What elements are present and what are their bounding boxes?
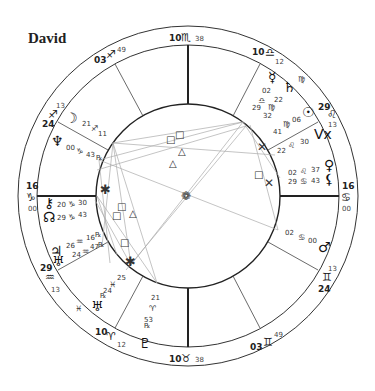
mars-deg: 02 bbox=[285, 229, 294, 237]
sun-icon: ☉ bbox=[302, 104, 315, 120]
cusp-dsc-min: 00 bbox=[28, 205, 37, 213]
cusp-dsc-deg: 16 bbox=[26, 181, 39, 191]
square-aspect-icon: □ bbox=[120, 237, 129, 248]
mars-min: 00 bbox=[308, 237, 317, 245]
virgo-sign: ♍ bbox=[298, 75, 305, 84]
chart-wheel: □ □ △ △ □ □ △ □ □ ✱ ✱ ✕ ✕ ❁ 10 ♏ 38 10 ♎… bbox=[0, 0, 375, 391]
sextile-aspect-icon: ✱ bbox=[100, 182, 111, 197]
chiron-min: 30 bbox=[78, 199, 87, 207]
uranus-deg: 24 bbox=[72, 251, 81, 259]
cusp-3-min: 49 bbox=[274, 331, 283, 339]
cusp-6-min: 13 bbox=[51, 286, 60, 294]
chiron-sign: ♑ bbox=[68, 200, 75, 209]
lilith-sign: ♋ bbox=[300, 177, 307, 186]
pluto-retro: ℞ bbox=[144, 322, 150, 330]
cusp-12-sign: ♌ bbox=[327, 108, 337, 121]
vertex-icon: Vx bbox=[314, 126, 332, 142]
sun-sign: ♍ bbox=[283, 120, 290, 129]
neptune-retro: ℞ bbox=[96, 154, 102, 162]
uranus-retro: ℞ bbox=[98, 241, 104, 249]
chiron-deg: 20 bbox=[57, 201, 66, 209]
lilith-deg: 29 bbox=[288, 178, 297, 186]
north-node-sign: ♑ bbox=[68, 213, 75, 222]
vertex-deg: 22 bbox=[277, 147, 286, 155]
mercury-min: 29 bbox=[252, 104, 261, 112]
quincunx-aspect-icon: ✕ bbox=[257, 140, 267, 154]
venus-sign: ♌ bbox=[300, 167, 307, 176]
jupiter-retro: ℞ bbox=[95, 231, 101, 239]
saturn-icon: ♄ bbox=[283, 79, 296, 95]
uranus-lower-icon: ♅ bbox=[91, 298, 104, 314]
saturn-sign: ♍ bbox=[268, 103, 275, 112]
pisces-deg: 25 bbox=[117, 274, 126, 282]
north-node-deg: 29 bbox=[57, 214, 66, 222]
cusp-asc-min: 00 bbox=[342, 205, 351, 213]
saturn-min: 32 bbox=[263, 112, 272, 120]
cusp-5-min: 12 bbox=[117, 341, 126, 349]
astrology-chart: David bbox=[0, 0, 375, 391]
chart-title: David bbox=[28, 30, 66, 47]
square-aspect-icon: □ bbox=[254, 169, 263, 180]
moon-min: 11 bbox=[98, 130, 107, 138]
aquarius-sign: ♒ bbox=[76, 237, 83, 246]
cusp-mc-min: 38 bbox=[195, 35, 204, 43]
cusp-2-sign: ♊ bbox=[322, 271, 332, 284]
cusp-mc-deg: 10 bbox=[169, 33, 182, 43]
cusp-9-min: 49 bbox=[117, 46, 126, 54]
uranus-sign: ♒ bbox=[82, 247, 89, 256]
cusp-6-sign: ♒ bbox=[45, 271, 55, 284]
venus-deg: 02 bbox=[288, 169, 297, 177]
cusp-11-sign: ♎ bbox=[265, 46, 275, 59]
uranus-icon: ♅ bbox=[52, 253, 65, 269]
neptune-icon: ♆ bbox=[51, 133, 64, 149]
cusp-11-min: 12 bbox=[275, 58, 284, 66]
neptune-sign: ♑ bbox=[76, 147, 83, 156]
pisces-cusp-sign: ♓ bbox=[75, 304, 82, 313]
cusp-3-sign: ♊ bbox=[263, 336, 273, 349]
vertex-min: 30 bbox=[300, 138, 309, 146]
cusp-11-deg: 10 bbox=[252, 47, 265, 57]
square-aspect-icon: □ bbox=[175, 129, 184, 140]
pluto-sign: ♈ bbox=[149, 304, 156, 313]
saturn-deg: 22 bbox=[274, 96, 283, 104]
lilith-icon: ⚸ bbox=[324, 171, 334, 187]
trine-aspect-icon: △ bbox=[169, 158, 177, 169]
aspect-glyphs: □ □ △ △ □ □ △ □ □ ✱ ✱ ✕ ✕ ❁ bbox=[100, 129, 274, 269]
trine-aspect-icon: △ bbox=[178, 146, 186, 157]
cusp-9-deg: 03 bbox=[94, 55, 107, 65]
mercury-deg: 02 bbox=[262, 87, 271, 95]
north-node-icon: ☊ bbox=[43, 209, 55, 225]
cusp-asc-sign: ♋ bbox=[341, 191, 351, 204]
cusp-3-deg: 03 bbox=[250, 342, 263, 352]
square-aspect-icon: □ bbox=[112, 210, 121, 221]
cusp-ic-min: 38 bbox=[195, 356, 204, 364]
moon-deg: 21 bbox=[82, 120, 91, 128]
pluto-icon: ♇ bbox=[139, 335, 152, 351]
sextile-aspect-icon: ✱ bbox=[125, 254, 136, 269]
neptune-min: 43 bbox=[86, 151, 95, 159]
trine-aspect-icon: △ bbox=[129, 208, 137, 219]
sun-min: 41 bbox=[273, 128, 282, 136]
jupiter-deg: 26 bbox=[66, 242, 75, 250]
pluto-deg: 21 bbox=[151, 294, 160, 302]
cusp-9-sign: ♐ bbox=[106, 48, 116, 61]
mercury-icon: ☿ bbox=[268, 69, 277, 85]
lilith-min: 43 bbox=[311, 177, 320, 185]
conjunction-cluster-icon: ❁ bbox=[181, 189, 191, 203]
venus-min: 37 bbox=[311, 166, 320, 174]
mars-icon: ♂ bbox=[318, 239, 331, 255]
cusp-dsc-sign: ♑ bbox=[26, 191, 36, 204]
cusp-ic-sign: ♉ bbox=[181, 352, 191, 365]
vertex-sign: ♌ bbox=[288, 141, 295, 150]
neptune-deg: 00 bbox=[66, 144, 75, 152]
sun-deg: 06 bbox=[292, 116, 301, 124]
cusp-2-deg: 24 bbox=[318, 284, 331, 294]
quincunx-aspect-icon: ✕ bbox=[264, 176, 274, 190]
cusp-mc-sign: ♏ bbox=[181, 31, 191, 44]
cusp-5-sign: ♈ bbox=[106, 330, 116, 343]
moon-icon: ☽ bbox=[65, 110, 78, 126]
cusp-8-deg: 24 bbox=[42, 119, 55, 129]
cusp-asc-deg: 16 bbox=[342, 181, 355, 191]
cusp-ic-deg: 10 bbox=[169, 354, 182, 364]
north-node-min: 43 bbox=[78, 211, 87, 219]
